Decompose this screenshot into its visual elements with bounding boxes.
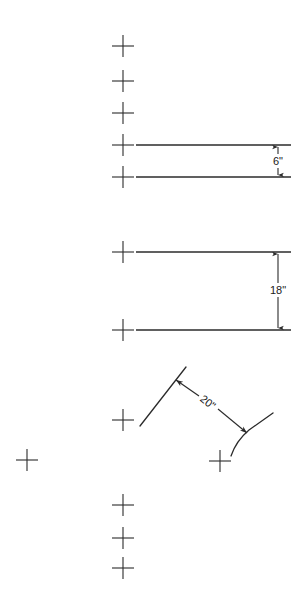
registration-mark xyxy=(112,557,134,579)
dimension-label-6-inch: 6" xyxy=(273,155,283,167)
dimension-20-inch: 20" xyxy=(140,367,273,456)
dimension-leader-left xyxy=(176,380,199,396)
registration-mark xyxy=(112,134,134,156)
diagram-canvas: 6" 18" 20" xyxy=(0,0,306,607)
registration-mark xyxy=(112,527,134,549)
registration-mark xyxy=(112,166,134,188)
registration-mark xyxy=(16,449,38,471)
dimension-6-inch: 6" xyxy=(273,147,283,175)
angled-line-left xyxy=(140,367,186,426)
angled-line-right xyxy=(231,413,273,456)
dimension-label-18-inch: 18" xyxy=(270,284,286,296)
registration-mark xyxy=(112,102,134,124)
technical-drawing: 6" 18" 20" xyxy=(0,0,306,607)
registration-mark xyxy=(112,494,134,516)
dimension-leader-right xyxy=(218,409,247,433)
registration-mark xyxy=(112,70,134,92)
dimension-label-20-inch: 20" xyxy=(198,392,218,411)
registration-mark xyxy=(112,35,134,57)
registration-mark xyxy=(112,409,134,431)
registration-mark xyxy=(112,319,134,341)
registration-mark xyxy=(209,450,231,472)
dimension-18-inch: 18" xyxy=(270,254,286,328)
registration-mark xyxy=(112,241,134,263)
edge-lines-group xyxy=(136,145,291,330)
registration-marks-group xyxy=(16,35,231,579)
